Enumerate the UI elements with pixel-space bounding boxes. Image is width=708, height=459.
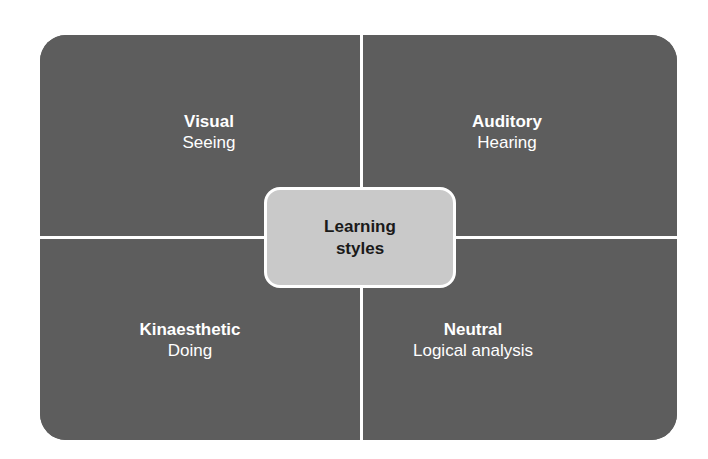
quadrant-subtitle: Hearing [447,132,567,153]
quadrant-title: Neutral [383,319,563,340]
quadrant-subtitle: Seeing [149,132,269,153]
quadrant-title: Kinaesthetic [120,319,260,340]
quadrant-subtitle: Logical analysis [383,340,563,361]
center-label-box: Learning styles [264,187,456,288]
center-label-line1: Learning [324,216,396,238]
center-label-line2: styles [336,238,384,260]
quadrant-subtitle: Doing [120,340,260,361]
quadrant-title: Auditory [447,111,567,132]
quadrant-title: Visual [149,111,269,132]
